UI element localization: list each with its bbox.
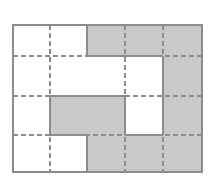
figure-canvas [0, 0, 215, 191]
shaded-cell-r2-c2 [87, 96, 125, 135]
shaded-cell-r2-c4 [163, 96, 202, 135]
shaded-cell-r0-c4 [163, 25, 202, 56]
shaded-cell-r0-c2 [87, 25, 125, 56]
shaded-cell-r3-c2 [87, 135, 125, 172]
shaded-cell-r2-c1 [50, 96, 87, 135]
shaded-cell-r1-c4 [163, 56, 202, 96]
shaded-cell-r3-c4 [163, 135, 202, 172]
shaded-cell-r3-c3 [125, 135, 163, 172]
shaded-cell-r0-c3 [125, 25, 163, 56]
shaded-grid-diagram [0, 0, 215, 191]
